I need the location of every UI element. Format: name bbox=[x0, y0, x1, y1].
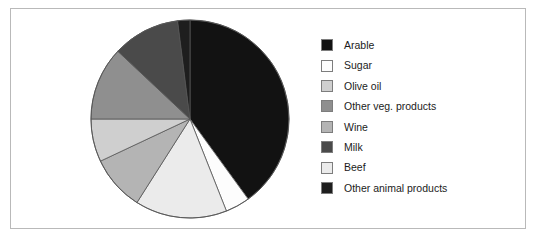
legend: ArableSugarOlive oilOther veg. productsW… bbox=[321, 35, 511, 198]
legend-item[interactable]: Beef bbox=[321, 157, 511, 177]
legend-item[interactable]: Other animal products bbox=[321, 178, 511, 198]
legend-swatch-icon bbox=[321, 162, 333, 174]
legend-item-label: Milk bbox=[344, 142, 363, 153]
legend-swatch-icon bbox=[321, 60, 333, 72]
legend-swatch-icon bbox=[321, 80, 333, 92]
legend-item[interactable]: Wine bbox=[321, 117, 511, 137]
legend-item[interactable]: Other veg. products bbox=[321, 96, 511, 116]
legend-item-label: Wine bbox=[344, 122, 368, 133]
legend-swatch-icon bbox=[321, 39, 333, 51]
figure-frame: ArableSugarOlive oilOther veg. productsW… bbox=[10, 8, 526, 229]
legend-swatch-icon bbox=[321, 121, 333, 133]
legend-swatch-icon bbox=[321, 141, 333, 153]
pie-slice-group bbox=[91, 20, 289, 218]
legend-item[interactable]: Arable bbox=[321, 35, 511, 55]
legend-item[interactable]: Sugar bbox=[321, 55, 511, 75]
legend-swatch-icon bbox=[321, 182, 333, 194]
pie-chart bbox=[90, 19, 290, 219]
legend-item-label: Other animal products bbox=[344, 183, 447, 194]
legend-item-label: Other veg. products bbox=[344, 101, 436, 112]
legend-item-label: Sugar bbox=[344, 60, 372, 71]
legend-item[interactable]: Olive oil bbox=[321, 76, 511, 96]
legend-item-label: Olive oil bbox=[344, 81, 381, 92]
legend-item[interactable]: Milk bbox=[321, 137, 511, 157]
legend-item-label: Arable bbox=[344, 40, 374, 51]
legend-item-label: Beef bbox=[344, 162, 366, 173]
pie-chart-svg bbox=[90, 19, 290, 219]
legend-swatch-icon bbox=[321, 100, 333, 112]
